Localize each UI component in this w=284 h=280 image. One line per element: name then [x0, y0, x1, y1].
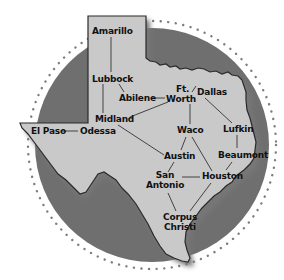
city-lubbock: Lubbock [92, 74, 133, 84]
city-beaumont: Beaumont [218, 150, 268, 160]
city-san-antonio-line2: Antonio [146, 180, 184, 190]
city-austin: Austin [164, 151, 195, 161]
city-ft-worth-line2: Worth [166, 94, 194, 104]
city-odessa: Odessa [80, 126, 116, 136]
city-el-paso: El Paso [31, 126, 66, 136]
texas-map [0, 0, 284, 280]
city-houston: Houston [202, 171, 243, 181]
city-san-antonio: San Antonio [146, 170, 184, 190]
city-corpus-christi: Corpus Christi [163, 212, 197, 232]
city-ft-worth-line1: Ft. [166, 84, 194, 94]
city-abilene: Abilene [119, 93, 156, 103]
city-san-antonio-line1: San [146, 170, 184, 180]
city-midland: Midland [95, 114, 134, 124]
city-amarillo: Amarillo [92, 26, 133, 36]
city-dallas: Dallas [197, 87, 227, 97]
city-lufkin: Lufkin [223, 124, 253, 134]
city-ft-worth: Ft. Worth [166, 84, 194, 104]
city-corpus-christi-line1: Corpus [163, 212, 197, 222]
city-corpus-christi-line2: Christi [163, 222, 197, 232]
city-waco: Waco [177, 125, 203, 135]
